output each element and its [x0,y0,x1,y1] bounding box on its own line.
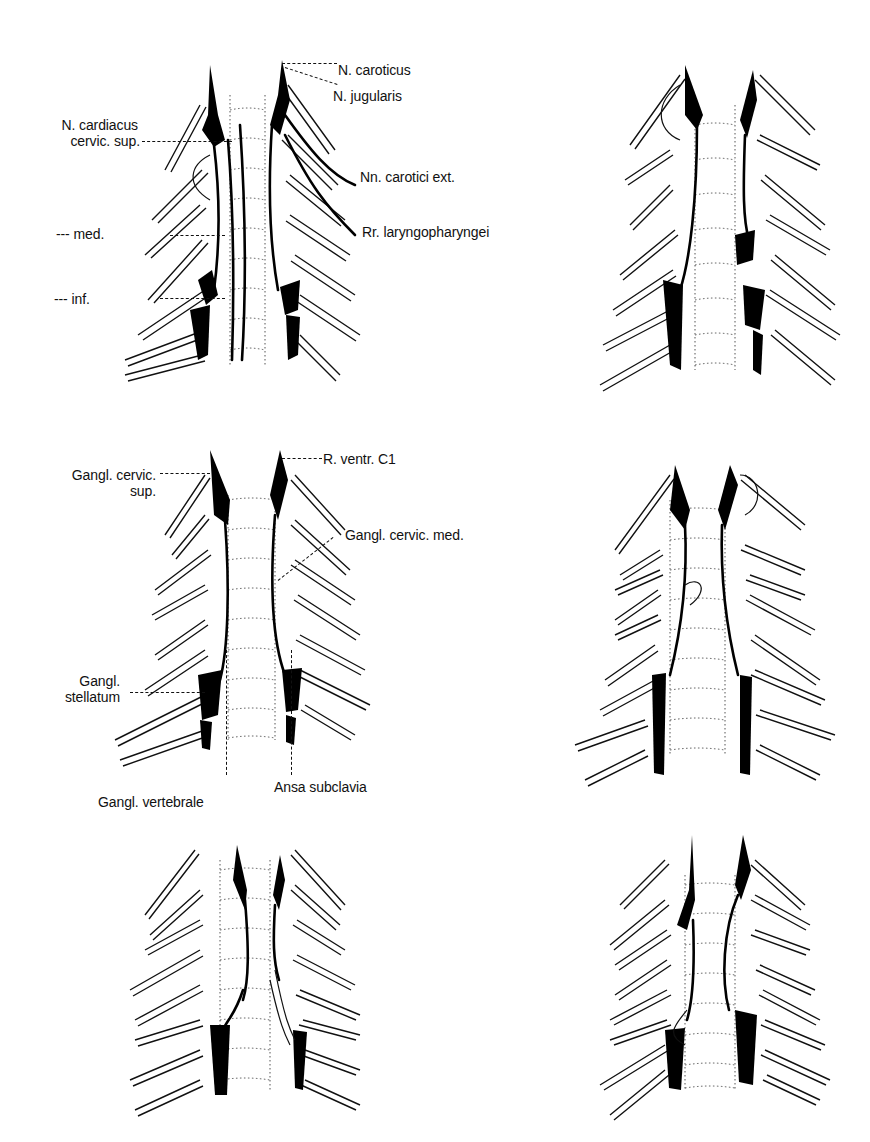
panel-top-left [110,55,370,395]
label-n-caroticus: N. caroticus [338,62,411,78]
label-ansa-subclavia: Ansa subclavia [274,779,367,795]
label-gangl-cervic-med: Gangl. cervic. med. [345,527,464,543]
sympathetic-trunk-drawing [145,840,375,1120]
leader-ansa-subclavia [291,650,292,775]
panel-top-right [585,60,845,390]
panel-bottom-right [595,830,845,1120]
sympathetic-trunk-drawing [585,60,845,390]
label-n-jugularis: N. jugularis [333,88,402,104]
left-sympathetic-trunk [661,65,703,370]
vertebral-column [670,500,725,755]
sympathetic-trunk-drawing [595,830,845,1120]
sympathetic-trunk-drawing [570,455,845,785]
label-nn-carotici-ext: Nn. carotici ext. [360,169,455,185]
vertebral-column [695,105,735,370]
label-r-ventr-c1: R. ventr. C1 [323,451,396,467]
right-sympathetic-trunk [270,450,302,745]
label-n-cardiacus-line2: cervic. sup. [42,133,140,149]
label-rr-laryngopharyngei: Rr. laryngopharyngei [362,224,489,240]
panel-bottom-left [145,840,375,1120]
right-rami [291,475,370,740]
sympathetic-trunk-drawing [110,55,370,395]
vertebral-column [230,95,265,365]
right-sympathetic-trunk [270,60,355,360]
right-sympathetic-trunk [718,465,758,775]
left-sympathetic-trunk [210,845,248,1095]
left-sympathetic-trunk [665,835,695,1090]
label-med: --- med. [56,226,104,242]
leader-n-caroticus [282,63,337,64]
label-gangl-stellatum-line1: Gangl. [50,673,120,689]
leader-n-cardiacus [142,141,232,142]
leader-gangl-stellatum [130,692,205,693]
left-rami [600,860,671,1120]
label-gangl-cervic-sup-line2: sup. [40,483,156,499]
label-gangl-cervic-sup-line1: Gangl. cervic. [40,467,156,483]
right-rami [751,860,830,1105]
leader-med [170,235,225,236]
label-gangl-stellatum-line2: stellatum [50,689,120,705]
right-sympathetic-trunk [735,70,765,375]
vertebral-column [228,495,275,740]
label-n-cardiacus-line1: N. cardiacus [42,117,138,133]
right-rami [755,75,840,385]
label-gangl-vertebrale: Gangl. vertebrale [98,794,204,810]
right-rami [741,475,835,780]
leader-r-ventr-c1 [282,458,322,459]
panel-middle-right [570,455,845,785]
leader-inf [160,298,225,299]
leader-gangl-vertebrale [226,650,227,775]
label-inf: --- inf. [54,291,90,307]
leader-gangl-cervic-sup [160,473,210,474]
left-rami [130,850,203,1116]
right-sympathetic-trunk [724,835,757,1085]
left-rami [115,475,211,766]
